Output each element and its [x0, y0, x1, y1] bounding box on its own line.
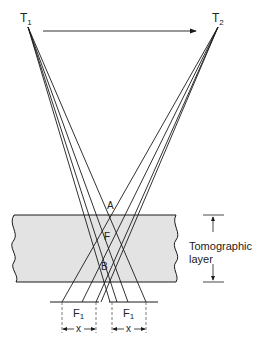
label-point-a: A	[107, 200, 114, 211]
label-tomographic: Tomographic	[189, 240, 252, 252]
label-dim-left: x	[76, 323, 81, 334]
label-layer: layer	[189, 253, 213, 265]
label-point-f: F	[104, 231, 110, 242]
label-point-b: B	[101, 261, 108, 272]
label-film-right: F1	[123, 307, 135, 321]
tomography-diagram: T1 T2 A F B F1 F1 x x Tomographic layer	[0, 0, 265, 341]
label-dim-right: x	[126, 323, 131, 334]
label-t2: T2	[212, 11, 224, 27]
label-t1: T1	[20, 11, 32, 27]
label-film-left: F1	[73, 307, 85, 321]
tomographic-slab	[12, 215, 178, 282]
